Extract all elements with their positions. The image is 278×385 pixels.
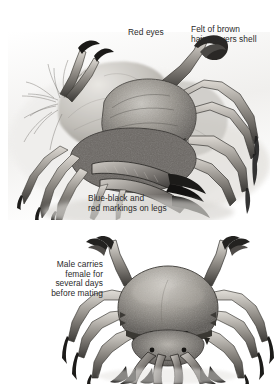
- illustration-plate: Red eyes Felt of brown hairs covers shel…: [0, 0, 278, 385]
- label-felt-of-brown-hairs: Felt of brown hairs covers shell: [191, 25, 257, 44]
- crab-side-view-illustration: [8, 32, 270, 220]
- label-blue-black-red-markings: Blue-black and red markings on legs: [88, 194, 167, 213]
- label-male-carries-female: Male carries female for several days bef…: [21, 260, 103, 298]
- label-red-eyes: Red eyes: [128, 28, 164, 38]
